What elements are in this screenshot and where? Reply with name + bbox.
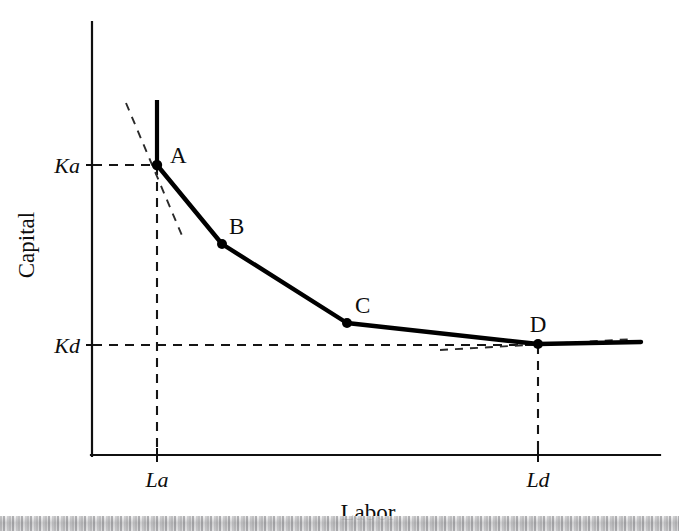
point-marker-c [342, 318, 352, 328]
y-tick-label-ka: Ka [53, 153, 80, 178]
point-label-a: A [170, 143, 187, 168]
tangent-lines-group [126, 103, 634, 350]
isoquant-plot: A B C D Ka Kd La Ld Capital Labor [0, 0, 679, 531]
y-axis-title: Capital [14, 212, 39, 278]
point-label-d: D [530, 312, 547, 337]
x-tick-label-la: La [144, 467, 168, 492]
isoquant-polyline [157, 165, 641, 344]
tick-labels-group: Ka Kd La Ld [53, 153, 550, 492]
tangent-at-a-line [126, 103, 183, 238]
y-tick-label-kd: Kd [53, 333, 81, 358]
guide-lines-group [93, 165, 540, 454]
point-label-c: C [355, 293, 370, 318]
tick-marks-group [86, 165, 538, 462]
isoquant-figure: A B C D Ka Kd La Ld Capital Labor [0, 0, 679, 531]
point-marker-d [533, 339, 543, 349]
data-point-markers-group [152, 160, 543, 349]
x-tick-label-ld: Ld [525, 467, 550, 492]
axis-titles-group: Capital Labor [14, 212, 396, 525]
point-label-b: B [229, 214, 244, 239]
scan-artifact-band [0, 516, 679, 531]
point-marker-b [217, 239, 227, 249]
axes-group [91, 22, 660, 456]
point-marker-a [152, 160, 162, 170]
point-labels-group: A B C D [170, 143, 546, 337]
